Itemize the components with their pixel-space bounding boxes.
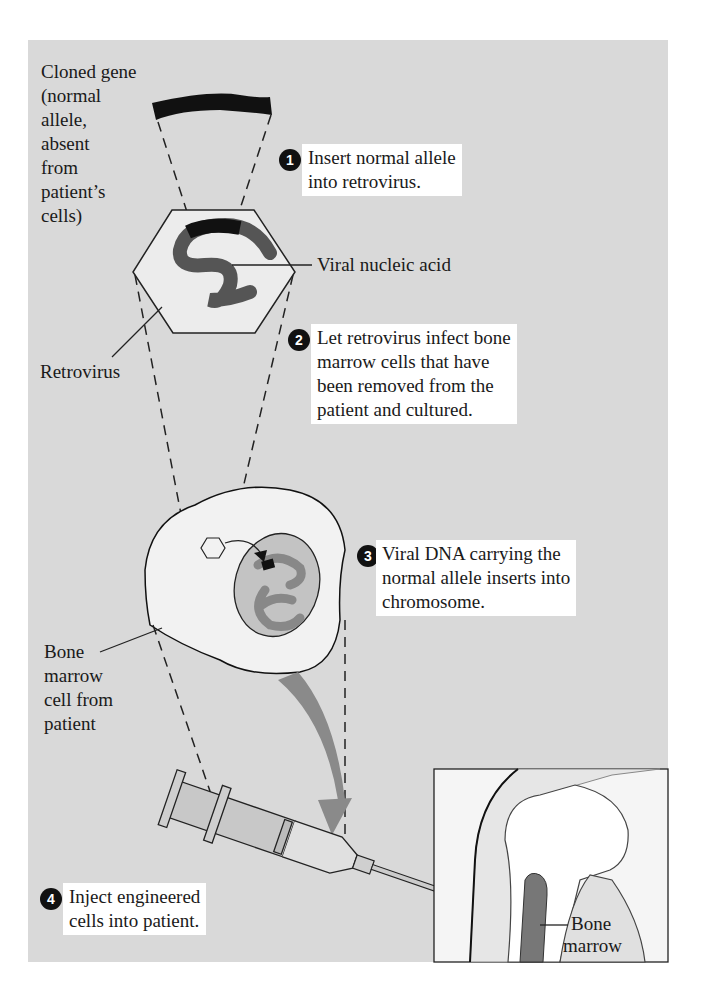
cloned-gene-label: Cloned gene (normal allele, absent from …	[41, 60, 137, 228]
retrovirus-label: Retrovirus	[40, 360, 120, 384]
bone-inset	[434, 769, 668, 962]
transfer-arrow	[278, 672, 345, 800]
step-1-text: Insert normal allele into retrovirus.	[302, 144, 462, 196]
bone-marrow-cell-label: Bone marrow cell from patient	[44, 640, 113, 736]
bone-marrow-label: Bone marrow	[563, 913, 622, 957]
step-4-text: Inject engineered cells into patient.	[63, 883, 206, 935]
step-2-badge: 2	[288, 329, 310, 351]
step-2-text: Let retrovirus infect bone marrow cells …	[311, 324, 517, 424]
small-retrovirus-hexagon	[201, 538, 225, 558]
viral-nucleic-acid-label: Viral nucleic acid	[317, 253, 451, 277]
cloned-gene-segment	[152, 94, 272, 120]
step-1-badge: 1	[279, 149, 301, 171]
step-4-badge: 4	[40, 888, 62, 910]
step-3-text: Viral DNA carrying the normal allele ins…	[376, 540, 576, 616]
